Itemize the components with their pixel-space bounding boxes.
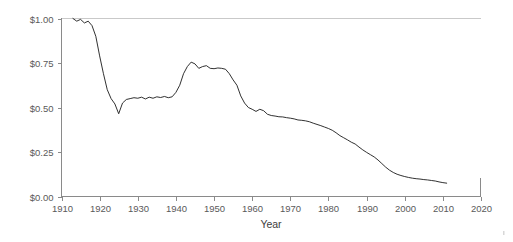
x-axis-title: Year (260, 218, 282, 230)
y-tick-label: $1.00 (30, 14, 54, 25)
line-chart: $0.00$0.25$0.50$0.75$1.00 19101920193019… (0, 0, 513, 242)
x-tick-label: 2000 (395, 203, 416, 214)
x-tick-label: 1940 (166, 203, 187, 214)
x-tick-label: 1950 (204, 203, 225, 214)
x-axis-ticks (63, 197, 482, 201)
chart-container: $0.00$0.25$0.50$0.75$1.00 19101920193019… (0, 0, 513, 242)
data-series-line (73, 19, 447, 184)
x-tick-label: 1980 (318, 203, 339, 214)
x-axis-tick-labels: 1910192019301940195019601970198019902000… (52, 203, 492, 214)
x-tick-label: 1990 (357, 203, 378, 214)
x-tick-label: 1920 (90, 203, 111, 214)
y-tick-label: $0.75 (30, 58, 54, 69)
y-axis-tick-labels: $0.00$0.25$0.50$0.75$1.00 (30, 14, 54, 203)
x-tick-label: 2010 (433, 203, 454, 214)
x-tick-label: 1910 (52, 203, 73, 214)
x-tick-label: 1960 (242, 203, 263, 214)
y-tick-label: $0.25 (30, 147, 54, 158)
x-tick-label: 1970 (280, 203, 301, 214)
x-tick-label: 1930 (128, 203, 149, 214)
corner-artifact-mark (503, 231, 505, 235)
x-tick-label: 2020 (471, 203, 492, 214)
y-axis-ticks (58, 20, 62, 198)
y-tick-label: $0.00 (30, 192, 54, 203)
y-tick-label: $0.50 (30, 103, 54, 114)
